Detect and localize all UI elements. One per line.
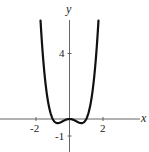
function-graph: y x -2 2 4 -1 (0, 0, 149, 152)
tick-label-neg2: -2 (30, 122, 39, 134)
tick-label-2: 2 (100, 122, 106, 134)
tick-label-neg1: -1 (55, 130, 64, 142)
tick-label-4: 4 (59, 47, 65, 59)
x-axis-label: x (140, 111, 147, 125)
y-axis-label: y (65, 2, 72, 16)
